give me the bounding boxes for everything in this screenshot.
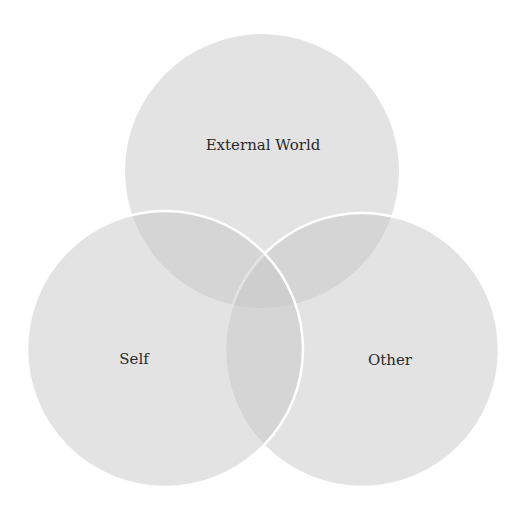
other-label: Other [368, 351, 413, 369]
external-world-label: External World [206, 136, 321, 154]
self-circle [27, 211, 303, 487]
venn-diagram: External World Self Other [0, 0, 527, 518]
self-label: Self [119, 350, 150, 368]
